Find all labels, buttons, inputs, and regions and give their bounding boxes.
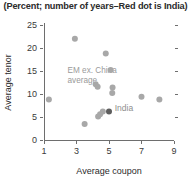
plot-area: 051015202513579Average couponAverage ten…	[0, 0, 191, 180]
data-point-em-ex-china	[103, 51, 109, 57]
y-axis-title: Average tenor	[3, 54, 13, 110]
y-tick-label: 5	[32, 112, 37, 122]
data-point-em-ex-china	[139, 94, 145, 100]
y-tick-label: 20	[27, 43, 37, 53]
y-tick-label: 25	[27, 20, 37, 30]
x-tick-label: 9	[171, 146, 176, 156]
y-tick-label: 10	[27, 89, 37, 99]
x-tick-label: 1	[41, 146, 46, 156]
data-point-em-ex-china	[109, 90, 115, 96]
x-tick-label: 3	[74, 146, 79, 156]
x-tick-label: 7	[139, 146, 144, 156]
data-point-em-ex-china	[95, 84, 101, 90]
data-point-em-ex-china	[72, 36, 78, 42]
x-axis-title: Average coupon	[76, 166, 141, 176]
data-point-em-ex-china	[100, 108, 106, 114]
data-point-em-ex-china	[108, 67, 114, 73]
data-point-em-ex-china	[82, 121, 88, 127]
data-point-em-ex-china	[156, 97, 162, 103]
annotation-line: India	[115, 103, 134, 113]
data-point-em-ex-china	[110, 85, 116, 91]
annotation-india-label: India	[115, 103, 134, 113]
x-tick-label: 5	[106, 146, 111, 156]
scatter-chart: (Percent; number of years–Red dot is Ind…	[0, 0, 191, 180]
data-point-em-ex-china	[46, 97, 52, 103]
data-point-india	[106, 108, 112, 114]
y-tick-label: 0	[32, 135, 37, 145]
y-tick-label: 15	[27, 66, 37, 76]
